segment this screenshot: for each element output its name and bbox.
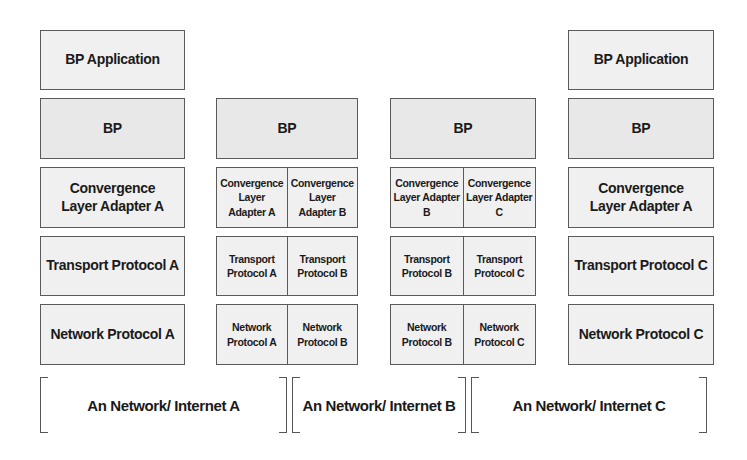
bracket-right-icon — [279, 377, 287, 433]
stack1-bp: BP — [40, 98, 185, 159]
stack2-transport-a: Transport Protocol A — [217, 237, 287, 295]
stack2-bp: BP — [216, 98, 358, 159]
bracket-left-icon — [40, 377, 48, 433]
bracket-right-icon — [458, 377, 466, 433]
stack2-network: Network Protocol A Network Protocol B — [216, 304, 358, 365]
stack3-cla-c: Convergence Layer Adapter C — [463, 168, 536, 227]
stack4-transport: Transport Protocol C — [568, 236, 714, 296]
stack1-bp-application: BP Application — [40, 30, 185, 90]
stack2-cla: Convergence Layer Adapter A Convergence … — [216, 167, 358, 228]
stack3-transport: Transport Protocol B Transport Protocol … — [390, 236, 536, 296]
stack1-cla: Convergence Layer Adapter A — [40, 167, 185, 228]
network-c: An Network/ Internet C — [471, 377, 707, 433]
stack4-bp-application: BP Application — [568, 30, 714, 90]
stack2-transport: Transport Protocol A Transport Protocol … — [216, 236, 358, 296]
stack1-transport: Transport Protocol A — [40, 236, 185, 296]
stack3-transport-b: Transport Protocol B — [391, 237, 463, 295]
stack2-network-a: Network Protocol A — [217, 305, 287, 364]
bracket-left-icon — [292, 377, 300, 433]
stack3-network-b: Network Protocol B — [391, 305, 463, 364]
stack3-network: Network Protocol B Network Protocol C — [390, 304, 536, 365]
stack3-transport-c: Transport Protocol C — [463, 237, 536, 295]
network-b-label: An Network/ Internet B — [303, 397, 456, 414]
stack2-transport-b: Transport Protocol B — [287, 237, 358, 295]
stack2-network-b: Network Protocol B — [287, 305, 358, 364]
bracket-left-icon — [471, 377, 479, 433]
stack3-network-c: Network Protocol C — [463, 305, 536, 364]
stack2-cla-b: Convergence Layer Adapter B — [287, 168, 358, 227]
stack2-cla-a: Convergence Layer Adapter A — [217, 168, 287, 227]
network-b: An Network/ Internet B — [292, 377, 466, 433]
stack3-cla: Convergence Layer Adapter B Convergence … — [390, 167, 536, 228]
stack4-network: Network Protocol C — [568, 304, 714, 365]
stack3-bp: BP — [390, 98, 536, 159]
network-a: An Network/ Internet A — [40, 377, 287, 433]
network-a-label: An Network/ Internet A — [87, 397, 239, 414]
stack3-cla-b: Convergence Layer Adapter B — [391, 168, 463, 227]
stack1-network: Network Protocol A — [40, 304, 185, 365]
network-c-label: An Network/ Internet C — [513, 397, 666, 414]
stack4-cla: Convergence Layer Adapter A — [568, 167, 714, 228]
bracket-right-icon — [699, 377, 707, 433]
stack4-bp: BP — [568, 98, 714, 159]
